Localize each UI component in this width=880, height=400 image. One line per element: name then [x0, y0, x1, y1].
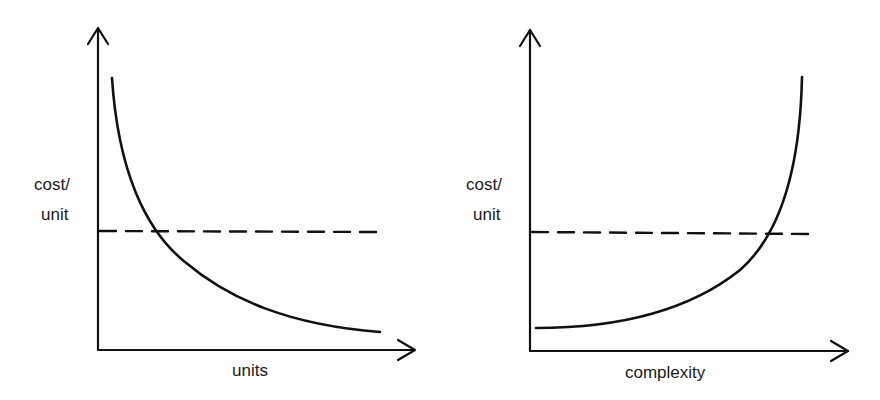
right-diagram: [520, 30, 848, 361]
right-cost-curve: [536, 77, 802, 328]
right-ylabel-line2: unit: [473, 204, 500, 226]
diagram-canvas: [0, 0, 880, 400]
left-cost-curve: [112, 78, 380, 332]
left-diagram: [88, 28, 415, 360]
right-xlabel: complexity: [625, 362, 705, 384]
left-dashed-line: [100, 231, 380, 232]
right-ylabel-line1: cost/: [466, 174, 502, 196]
left-ylabel-line2: unit: [41, 204, 68, 226]
left-xlabel: units: [232, 360, 268, 382]
left-ylabel-line1: cost/: [34, 174, 70, 196]
